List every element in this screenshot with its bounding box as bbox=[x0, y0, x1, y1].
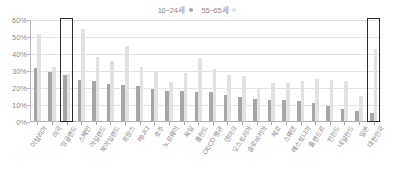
bar-old[interactable] bbox=[359, 96, 363, 122]
bar-old[interactable] bbox=[125, 46, 129, 123]
bar-group[interactable] bbox=[162, 20, 177, 122]
bar-chart: 16~24세 55~65세 0%10%20%30%40%50%60% 이탈리아미… bbox=[0, 0, 394, 185]
bar-group[interactable] bbox=[118, 20, 133, 122]
bar-group[interactable] bbox=[89, 20, 104, 122]
y-tick-label: 0% bbox=[16, 118, 27, 127]
bar-old[interactable] bbox=[242, 76, 246, 122]
y-axis-labels: 0%10%20%30%40%50%60% bbox=[0, 20, 27, 122]
bar-old[interactable] bbox=[271, 83, 275, 122]
bar-old[interactable] bbox=[184, 73, 188, 122]
bar-old[interactable] bbox=[198, 58, 202, 122]
x-axis-line bbox=[30, 121, 381, 122]
bar-old[interactable] bbox=[52, 67, 56, 122]
bar-group[interactable] bbox=[176, 20, 191, 122]
legend-entry-young: 16~24세 bbox=[158, 4, 193, 15]
x-tick-label: 이탈리아 bbox=[28, 124, 49, 149]
bar-old[interactable] bbox=[81, 29, 85, 123]
bar-group[interactable] bbox=[220, 20, 235, 122]
bar-group[interactable] bbox=[74, 20, 89, 122]
x-tick-label: 프랑스 bbox=[119, 124, 137, 144]
bar-old[interactable] bbox=[37, 34, 41, 122]
bar-group[interactable] bbox=[191, 20, 206, 122]
bar-group[interactable] bbox=[264, 20, 279, 122]
y-tick-label: 20% bbox=[12, 84, 27, 93]
x-tick-label: 캐나다 bbox=[133, 124, 151, 144]
bar-old[interactable] bbox=[286, 83, 290, 122]
bar-group[interactable] bbox=[132, 20, 147, 122]
y-tick-label: 60% bbox=[12, 16, 27, 25]
y-tick-label: 40% bbox=[12, 50, 27, 59]
bar-group[interactable] bbox=[323, 20, 338, 122]
bar-old[interactable] bbox=[96, 57, 100, 122]
bar-old[interactable] bbox=[315, 79, 319, 122]
bar-old[interactable] bbox=[301, 81, 305, 122]
bar-group[interactable] bbox=[45, 20, 60, 122]
legend-entry-old: 55~65세 bbox=[202, 4, 237, 15]
y-tick bbox=[27, 122, 30, 123]
bar-group[interactable] bbox=[352, 20, 367, 122]
bar-old[interactable] bbox=[344, 81, 348, 122]
bar-group[interactable] bbox=[308, 20, 323, 122]
legend-label-old: 55~65세 bbox=[202, 4, 229, 15]
bar-group[interactable] bbox=[366, 20, 381, 122]
bar-group[interactable] bbox=[30, 20, 45, 122]
bar-old[interactable] bbox=[67, 74, 71, 122]
bar-group[interactable] bbox=[293, 20, 308, 122]
bar-old[interactable] bbox=[169, 82, 173, 122]
bar-old[interactable] bbox=[374, 49, 378, 122]
y-tick-label: 50% bbox=[12, 33, 27, 42]
plot-area bbox=[30, 20, 381, 122]
y-tick-label: 30% bbox=[12, 67, 27, 76]
bar-group[interactable] bbox=[279, 20, 294, 122]
legend-swatch-old bbox=[232, 8, 236, 12]
bar-group[interactable] bbox=[235, 20, 250, 122]
bar-old[interactable] bbox=[110, 61, 114, 122]
y-tick-label: 10% bbox=[12, 101, 27, 110]
bar-group[interactable] bbox=[59, 20, 74, 122]
bar-group[interactable] bbox=[103, 20, 118, 122]
bar-group[interactable] bbox=[206, 20, 221, 122]
bars-layer bbox=[30, 20, 381, 122]
bar-old[interactable] bbox=[140, 67, 144, 122]
bar-old[interactable] bbox=[330, 80, 334, 123]
x-axis-labels: 이탈리아미국잉글랜드스페인아일랜드북아일랜드프랑스캐나다호주노르웨이독일폴란드O… bbox=[30, 124, 381, 184]
legend-label-young: 16~24세 bbox=[158, 4, 185, 15]
chart-legend: 16~24세 55~65세 bbox=[0, 3, 394, 16]
bar-group[interactable] bbox=[249, 20, 264, 122]
bar-group[interactable] bbox=[147, 20, 162, 122]
bar-old[interactable] bbox=[154, 71, 158, 122]
bar-old[interactable] bbox=[257, 88, 261, 122]
bar-old[interactable] bbox=[213, 69, 217, 122]
bar-group[interactable] bbox=[337, 20, 352, 122]
bar-old[interactable] bbox=[227, 75, 231, 122]
legend-swatch-young bbox=[189, 8, 193, 12]
